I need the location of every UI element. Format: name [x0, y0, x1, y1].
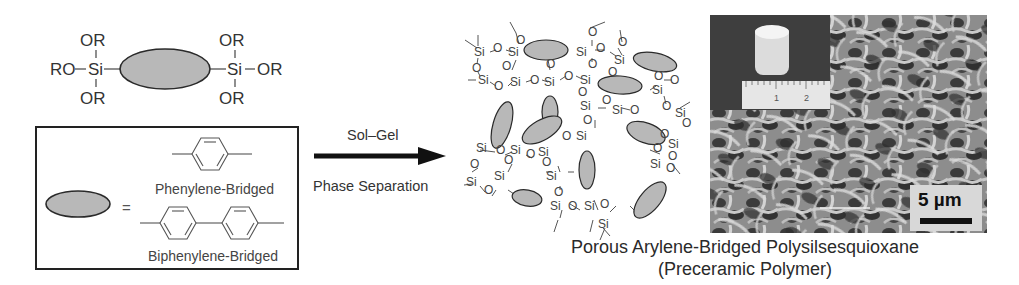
svg-text:Si: Si	[476, 141, 487, 155]
svg-text:Si: Si	[550, 199, 561, 213]
svg-text:O: O	[596, 41, 605, 55]
phenylene-ring-icon	[172, 138, 252, 170]
svg-text:Si: Si	[652, 83, 663, 97]
svg-text:O: O	[578, 85, 587, 99]
phenylene-label: Phenylene-Bridged	[155, 181, 274, 197]
scale-bar-box: 5 µm	[910, 185, 982, 231]
phase-separation-label: Phase Separation	[313, 178, 428, 194]
svg-text:Si: Si	[650, 157, 661, 171]
polysilsesquioxane-network: SiOSi O OO SiOSi OSi O OSi SiO Si OO OO …	[450, 0, 710, 240]
svg-text:O: O	[516, 33, 525, 47]
svg-text:O: O	[662, 99, 671, 113]
svg-text:O: O	[530, 73, 539, 87]
ruler-mark-1: 1	[774, 93, 779, 103]
svg-text:O: O	[484, 183, 493, 197]
product-subtitle: (Preceramic Polymer)	[540, 258, 950, 280]
svg-text:Si: Si	[612, 103, 623, 117]
left-si-left-or: RO	[50, 60, 76, 79]
svg-text:O: O	[564, 69, 573, 83]
svg-text:O: O	[568, 199, 577, 213]
product-title: Porous Arylene-Bridged Polysilsesquioxan…	[540, 236, 950, 258]
left-si-atom: Si	[88, 60, 103, 79]
svg-text:Si: Si	[478, 73, 489, 87]
svg-text:O: O	[588, 25, 597, 39]
right-si-right-or: OR	[257, 60, 283, 79]
svg-text:O: O	[608, 65, 617, 79]
svg-text:Si: Si	[544, 75, 555, 89]
svg-text:Si: Si	[576, 129, 587, 143]
svg-text:O: O	[660, 127, 669, 141]
svg-text:O: O	[583, 113, 592, 127]
biphenylene-rings-icon	[140, 207, 284, 239]
svg-text:O: O	[542, 155, 551, 169]
svg-text:O: O	[546, 57, 555, 71]
svg-text:O: O	[670, 73, 679, 87]
svg-text:Si: Si	[474, 45, 485, 59]
svg-text:O: O	[502, 59, 511, 73]
svg-text:O: O	[470, 157, 479, 171]
right-si-atom: Si	[227, 60, 242, 79]
svg-text:Si: Si	[576, 45, 587, 59]
reaction-arrow-icon	[310, 140, 450, 170]
bridge-ellipse-icon	[120, 49, 210, 89]
right-si-bottom-or: OR	[219, 89, 245, 108]
left-si-top-or: OR	[80, 31, 106, 50]
svg-text:O: O	[493, 41, 502, 55]
svg-text:O: O	[653, 141, 662, 155]
svg-text:O: O	[666, 161, 675, 175]
left-si-bottom-or: OR	[80, 89, 106, 108]
equals-sign: =	[122, 199, 131, 216]
ruler-icon: 1 2	[742, 81, 830, 109]
sample-photo-inset: 1 2	[710, 15, 830, 110]
ruler-mark-2: 2	[804, 93, 809, 103]
right-si-top-or: OR	[219, 31, 245, 50]
svg-text:O: O	[554, 185, 563, 199]
sem-micrograph: 1 2 5 µm	[710, 15, 987, 233]
svg-text:O: O	[630, 103, 639, 117]
svg-text:O: O	[588, 57, 597, 71]
svg-text:O: O	[602, 93, 611, 107]
biphenylene-label: Biphenylene-Bridged	[148, 248, 278, 264]
svg-text:O: O	[494, 79, 503, 93]
svg-text:O: O	[654, 69, 663, 83]
cylinder-top	[755, 25, 789, 39]
svg-text:Si: Si	[546, 169, 557, 183]
svg-text:O: O	[562, 129, 571, 143]
bridge-ellipse-icon	[46, 191, 110, 217]
svg-text:Si: Si	[584, 199, 595, 213]
scale-bar-label: 5 µm	[918, 189, 962, 211]
scale-bar	[920, 218, 972, 224]
bridge-legend-graphics: = Phenylene-Bridged Biphenylene-Bridged	[0, 120, 310, 280]
svg-text:O: O	[504, 153, 513, 167]
monomer-structure: OR RO Si OR OR Si OR OR	[0, 0, 310, 120]
svg-text:Si: Si	[598, 217, 609, 231]
svg-text:Si: Si	[580, 99, 591, 113]
svg-text:Si: Si	[508, 45, 519, 59]
svg-text:O: O	[682, 116, 691, 130]
svg-text:O: O	[618, 35, 627, 49]
svg-text:Si: Si	[466, 175, 477, 189]
svg-text:Si: Si	[494, 169, 505, 183]
svg-text:O: O	[600, 197, 609, 211]
svg-text:O: O	[526, 147, 535, 161]
svg-text:Si: Si	[510, 75, 521, 89]
